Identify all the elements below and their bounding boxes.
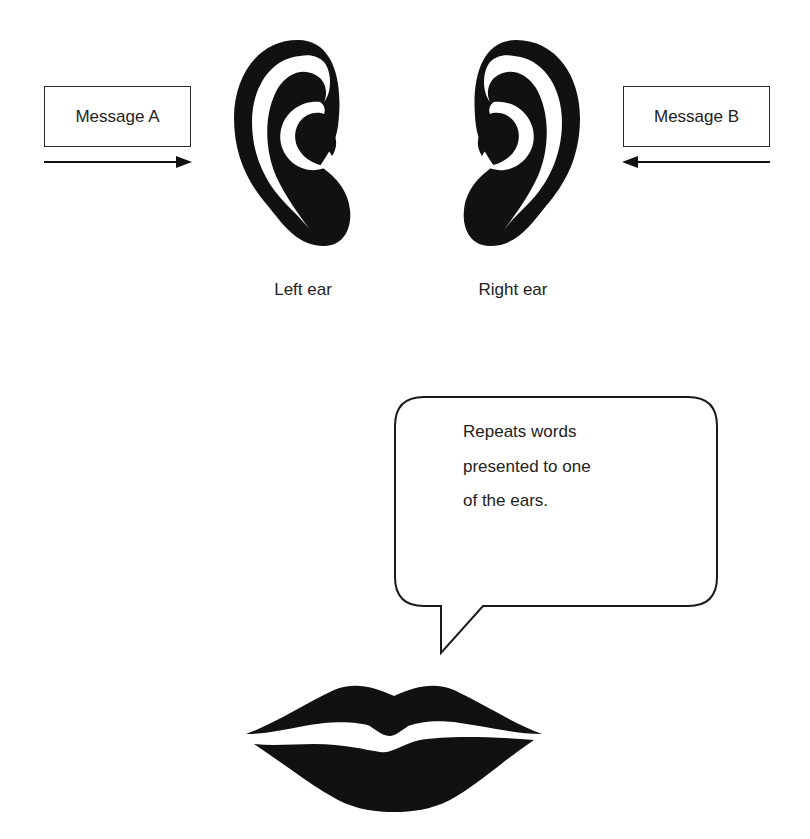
speech-bubble: Repeats words presented to one of the ea… — [395, 397, 717, 606]
speech-line-1: Repeats words — [463, 415, 591, 450]
right-ear-icon — [460, 38, 586, 248]
lips-icon — [244, 680, 544, 815]
arrow-right-icon — [44, 154, 192, 170]
message-b-label: Message B — [654, 107, 739, 127]
left-ear-label: Left ear — [243, 280, 363, 300]
speech-line-2: presented to one — [463, 450, 591, 485]
message-a-label: Message A — [75, 107, 159, 127]
message-b-box: Message B — [623, 86, 770, 147]
speech-bubble-text: Repeats words presented to one of the ea… — [463, 415, 591, 519]
message-a-box: Message A — [44, 86, 191, 147]
speech-line-3: of the ears. — [463, 484, 591, 519]
arrow-left-icon — [622, 154, 770, 170]
right-ear-label: Right ear — [453, 280, 573, 300]
left-ear-icon — [228, 38, 354, 248]
